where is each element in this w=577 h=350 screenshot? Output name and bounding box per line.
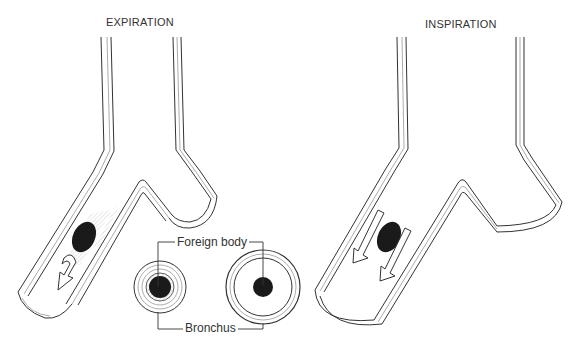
cross-section-narrowed (134, 261, 186, 313)
expiration-airway (18, 37, 217, 318)
bronchial-foreign-body-diagram: EXPIRATION INSPIRATION Foreign body Bron… (0, 0, 577, 350)
blocked-airflow-arrow-icon (58, 255, 76, 290)
foreign-body-cross-section-1 (149, 276, 171, 298)
inspiration-airway (315, 37, 562, 325)
expiration-title: EXPIRATION (106, 16, 174, 28)
diagram-drawing (0, 0, 577, 350)
inspiration-title: INSPIRATION (425, 18, 497, 30)
foreign-body-label: Foreign body (175, 235, 249, 249)
bronchus-label: Bronchus (183, 321, 238, 335)
